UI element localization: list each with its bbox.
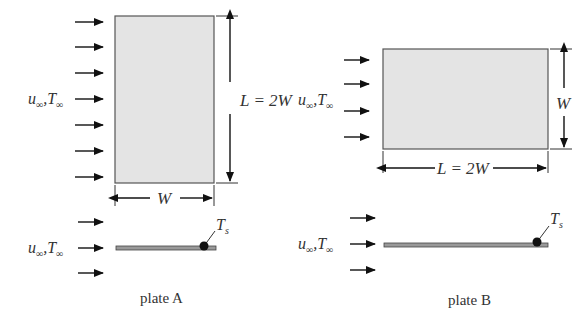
plate-a-surface-temp-label: Ts: [216, 217, 229, 236]
plate-b-surface-temp-label: Ts: [550, 211, 563, 230]
plate-b-caption: plate B: [448, 292, 491, 309]
plate-b-rectangle: [383, 49, 548, 149]
plate-b-top-view: [344, 49, 572, 173]
velocity-symbol: u: [298, 235, 306, 252]
plate-a-caption: plate A: [140, 290, 183, 307]
plate-b-edge: [384, 243, 548, 247]
infinity-subscript: ∞: [326, 100, 333, 111]
plate-a-flow-arrows: [75, 22, 103, 177]
temperature-symbol: T: [47, 90, 56, 107]
plate-b-width-label: W: [556, 95, 570, 112]
surface-temp-dot-icon: [533, 238, 542, 247]
temperature-symbol: T: [216, 216, 225, 233]
plate-a-freestream-label: u∞,T∞: [28, 91, 63, 110]
velocity-symbol: u: [28, 90, 36, 107]
surface-temp-dot-icon: [200, 242, 209, 251]
velocity-symbol: u: [298, 91, 306, 108]
plate-b-side-view: [350, 218, 549, 270]
plate-b-length-label: L = 2W: [437, 160, 489, 177]
temperature-symbol: T: [317, 91, 326, 108]
temperature-symbol: T: [47, 239, 56, 256]
infinity-subscript: ∞: [326, 244, 333, 255]
plate-b-side-freestream-label: u∞,T∞: [298, 236, 333, 255]
infinity-subscript: ∞: [56, 99, 63, 110]
plate-b-flow-arrows: [344, 60, 369, 137]
plate-a-top-view: [75, 16, 238, 206]
plate-b-freestream-label: u∞,T∞: [298, 92, 333, 111]
plate-a-length-dimension: [216, 16, 238, 183]
velocity-symbol: u: [28, 239, 36, 256]
diagram-canvas: [0, 0, 586, 329]
plate-a-width-label: W: [157, 190, 171, 207]
plate-a-side-freestream-label: u∞,T∞: [28, 240, 63, 259]
surface-subscript: s: [225, 225, 229, 236]
temperature-symbol: T: [317, 235, 326, 252]
temperature-symbol: T: [550, 210, 559, 227]
plate-a-rectangle: [115, 16, 214, 183]
plate-a-length-label: L = 2W: [240, 92, 292, 109]
surface-subscript: s: [559, 219, 563, 230]
infinity-subscript: ∞: [56, 248, 63, 259]
plate-a-side-view: [78, 222, 216, 273]
